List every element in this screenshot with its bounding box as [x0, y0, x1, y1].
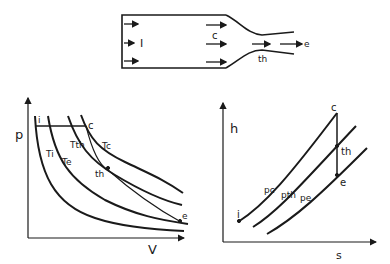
nozzle-label-throat: th: [258, 54, 267, 64]
hs-point-e: [335, 173, 338, 176]
hs-point-c-label: c: [331, 102, 337, 113]
nozzle-upper-wall: [226, 15, 294, 35]
nozzle-label-inlet: I: [140, 37, 143, 50]
isotherm-te-label: Te: [61, 157, 72, 167]
isotherm-tth: [68, 116, 182, 205]
nozzle-label-exit: e: [304, 39, 310, 49]
nozzle-schematic: [122, 15, 302, 68]
pv-point-th: [106, 166, 109, 169]
pv-point-c-label: c: [88, 120, 94, 131]
pv-x-axis-label: V: [148, 242, 157, 257]
diagram-canvas: I c th e p V i c th e Ti Te Tth Tc: [0, 0, 390, 264]
isobar-pc: [238, 113, 337, 222]
hs-diagram: [223, 103, 376, 242]
pv-point-th-label: th: [95, 169, 104, 179]
pv-point-i-label: i: [38, 115, 41, 125]
hs-point-th: [335, 144, 338, 147]
hs-point-th-label: th: [341, 146, 351, 157]
hs-point-i-label: i: [237, 209, 240, 220]
isotherm-ti: [35, 116, 184, 231]
isotherm-te: [48, 116, 188, 224]
pv-diagram: [28, 98, 188, 238]
nozzle-chamber-outline: [122, 15, 226, 68]
hs-x-axis-label: s: [336, 249, 342, 262]
isotherm-ti-label: Ti: [45, 149, 54, 159]
nozzle-label-chamber: c: [212, 30, 218, 41]
hs-point-e-label: e: [340, 177, 346, 188]
hs-y-axis-label: h: [230, 121, 238, 136]
isotherm-tc-label: Tc: [101, 141, 111, 151]
isotherm-tc: [81, 115, 183, 193]
isobar-pe-label: pe: [300, 193, 312, 203]
pv-point-e-label: e: [182, 211, 188, 221]
pv-y-axis-label: p: [15, 127, 23, 142]
isotherm-tth-label: Tth: [69, 140, 85, 150]
isobar-pth-label: pth: [281, 190, 296, 200]
isobar-pc-label: pc: [264, 185, 275, 195]
